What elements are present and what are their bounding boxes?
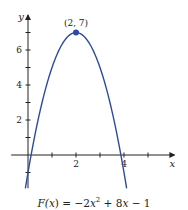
y-tick-label: 6 <box>16 45 22 55</box>
vertex-point <box>73 30 79 36</box>
y-axis-label: y <box>17 11 24 22</box>
x-tick-label: 2 <box>73 159 79 169</box>
vertex-label: (2, 7) <box>64 18 88 28</box>
caption-part: + 8 <box>100 197 122 209</box>
y-tick-label: 4 <box>16 80 22 90</box>
function-caption: F(x) = −2x2 + 8x − 1 <box>0 196 188 209</box>
parabola-chart: xy 24246 (2, 7) <box>0 0 188 210</box>
caption-part: F( <box>38 197 49 209</box>
caption-part: ) = −2 <box>55 197 90 209</box>
y-tick-label: 2 <box>16 115 22 125</box>
x-axis-label: x <box>170 158 176 169</box>
caption-part: − 1 <box>128 197 150 209</box>
